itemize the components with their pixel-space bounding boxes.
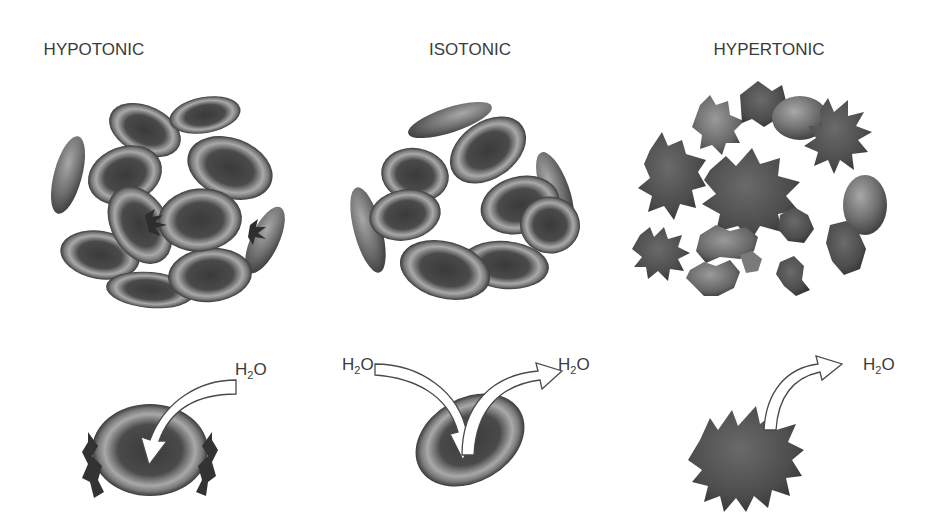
hypertonic-cell-cluster	[632, 81, 887, 296]
hypertonic-single-cell	[688, 406, 804, 512]
tonicity-illustration	[0, 0, 941, 530]
h2o-label-hypotonic-in: H2O	[235, 360, 267, 381]
h2o-label-isotonic-in: H2O	[342, 355, 374, 376]
h2o-label-hypertonic-out: H2O	[863, 355, 895, 376]
isotonic-cell-cluster	[343, 94, 584, 309]
hypotonic-cell-cluster	[44, 91, 293, 312]
water-out-arrow-icon	[764, 356, 842, 430]
h2o-label-isotonic-out: H2O	[558, 355, 590, 376]
